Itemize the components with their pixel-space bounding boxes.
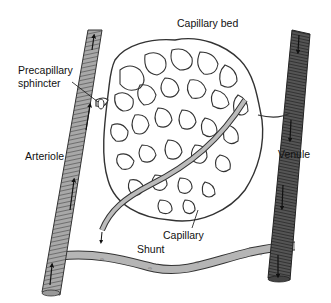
label-arteriole: Arteriole (25, 150, 64, 162)
svg-text:⇨: ⇨ (195, 259, 199, 265)
label-shunt: Shunt (137, 243, 164, 255)
label-precapillary-sphincter-line2: sphincter (18, 77, 61, 89)
svg-text:⇨: ⇨ (148, 265, 152, 271)
label-venule: Venule (278, 148, 310, 160)
svg-text:⇨: ⇨ (100, 256, 104, 262)
label-capillary-bed: Capillary bed (177, 17, 238, 29)
shunt-vessel: ⇨ ⇨ ⇨ ⇨ (60, 246, 295, 271)
svg-text:⇨: ⇨ (258, 251, 262, 257)
label-capillary: Capillary (163, 229, 204, 241)
label-precapillary-sphincter-line1: Precapillary (18, 64, 73, 76)
capillary-bed-mesh (104, 39, 263, 221)
